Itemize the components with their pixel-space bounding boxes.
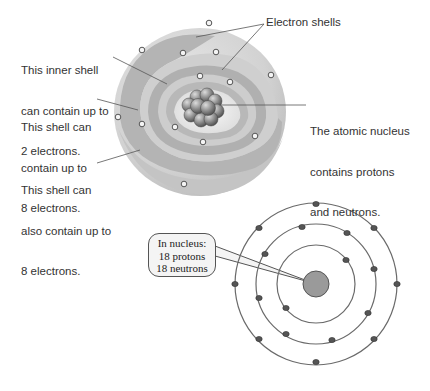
callout-line-2: 18 protons: [149, 250, 215, 263]
label-line: This shell can: [21, 121, 91, 135]
label-line: The atomic nucleus: [310, 125, 410, 139]
nucleus-callout: In nucleus: 18 protons 18 neutrons: [148, 233, 216, 277]
label-nucleus: The atomic nucleus contains protons and …: [310, 98, 410, 233]
callout-line-3: 18 neutrons: [149, 262, 215, 275]
label-line: also contain up to: [21, 225, 111, 239]
label-electron-shells: Electron shells: [266, 16, 341, 30]
label-line: 8 electrons.: [21, 265, 111, 279]
label-line: contains protons: [310, 166, 410, 180]
label-line: This shell can: [21, 184, 111, 198]
label-line: This inner shell: [21, 64, 109, 78]
nucleus-2d: [303, 271, 329, 297]
label-outer-shell: This shell can also contain up to 8 elec…: [21, 157, 111, 292]
label-line: and neutrons.: [310, 206, 410, 220]
callout-line-1: In nucleus:: [149, 237, 215, 250]
